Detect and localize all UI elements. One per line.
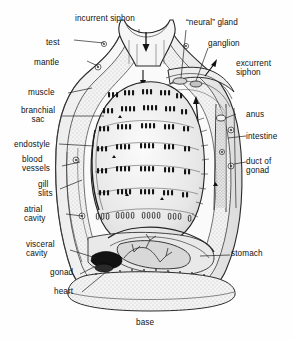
label-duct-of-gonad: duct of gonad bbox=[246, 157, 271, 175]
ganglion-structure bbox=[190, 81, 202, 87]
neural-gland-structure bbox=[173, 78, 187, 84]
anatomy-figure: incurrent siphon test mantle muscle bran… bbox=[0, 0, 293, 340]
label-branchial-sac: branchial sac bbox=[14, 106, 62, 124]
label-stomach: stomach bbox=[231, 249, 263, 258]
label-heart: heart bbox=[54, 287, 73, 296]
label-gonad: gonad bbox=[50, 268, 73, 277]
label-atrial-cavity: atrial cavity bbox=[24, 205, 46, 223]
label-excurrent-siphon: excurrent siphon bbox=[236, 59, 271, 77]
label-anus: anus bbox=[246, 110, 264, 119]
label-base: base bbox=[136, 318, 154, 327]
label-test: test bbox=[46, 38, 60, 47]
branchial-sac bbox=[91, 82, 209, 249]
label-neural-gland: “neural” gland bbox=[186, 18, 238, 27]
label-gill-slits: gill slits bbox=[38, 180, 53, 198]
label-mantle: mantle bbox=[34, 58, 59, 67]
label-visceral-cavity: visceral cavity bbox=[26, 240, 55, 258]
label-intestine: intestine bbox=[246, 132, 277, 141]
label-incurrent-siphon: incurrent siphon bbox=[75, 14, 135, 23]
label-endostyle: endostyle bbox=[14, 140, 50, 149]
label-muscle: muscle bbox=[28, 88, 55, 97]
label-ganglion: ganglion bbox=[208, 39, 240, 48]
anus-structure bbox=[217, 115, 226, 121]
label-blood-vessels: blood vessels bbox=[22, 155, 50, 173]
